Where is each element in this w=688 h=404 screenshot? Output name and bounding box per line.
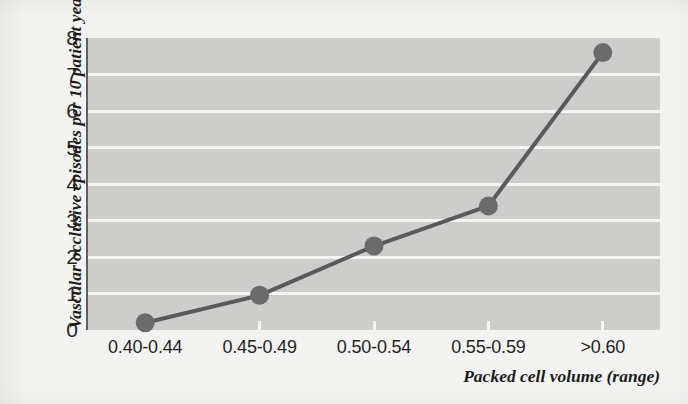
chart-figure: 012345678 0.40-0.440.45-0.490.50-0.540.5… — [0, 0, 688, 404]
x-axis-title: Packed cell volume (range) — [330, 366, 660, 387]
data-point-marker — [250, 286, 269, 305]
data-point-marker — [136, 313, 155, 332]
plot-area — [88, 38, 660, 330]
data-point-marker — [365, 237, 384, 256]
data-point-marker — [593, 43, 612, 62]
data-point-marker — [479, 196, 498, 215]
y-axis-line — [86, 38, 88, 330]
x-tick-label: >0.60 — [523, 337, 683, 358]
line-series — [88, 38, 660, 330]
y-axis-title: Vascular occlusive episodes per 10 patie… — [65, 29, 86, 329]
series-line — [145, 53, 603, 323]
